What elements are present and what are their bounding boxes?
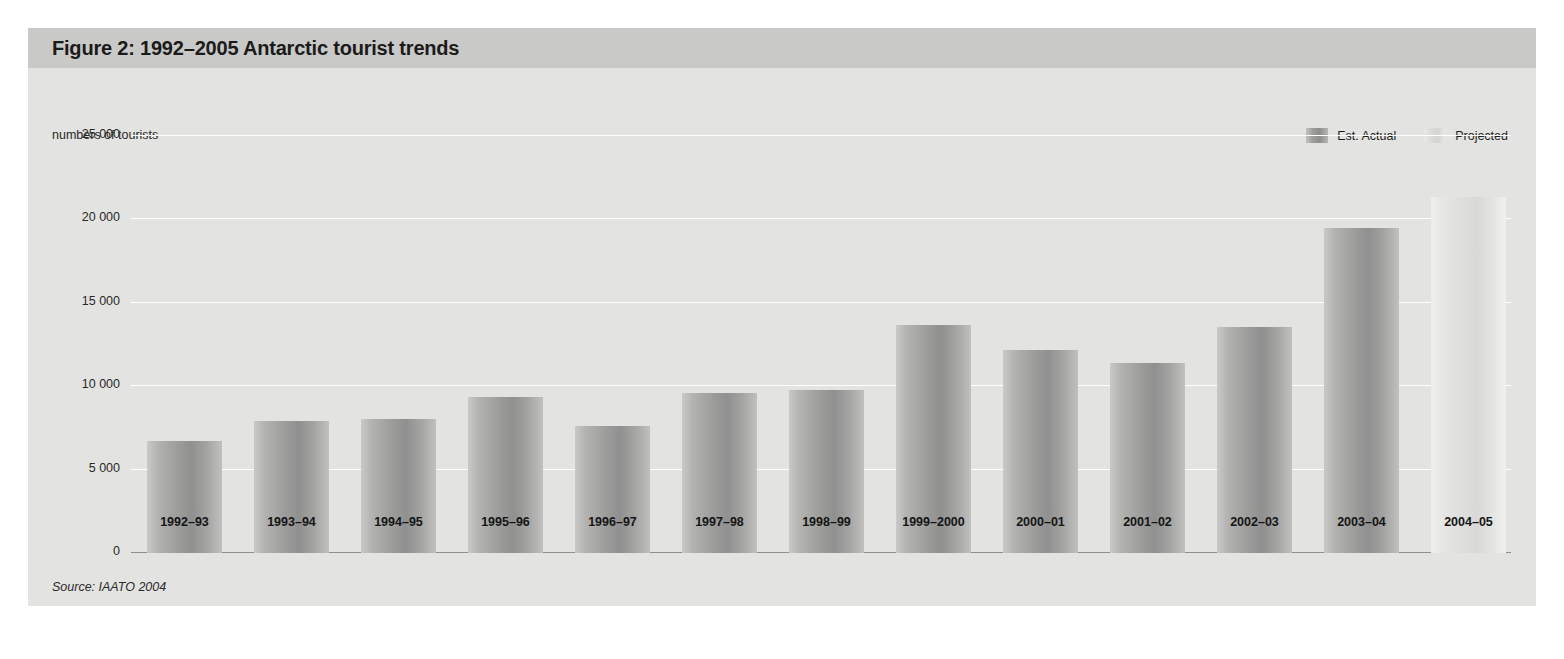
plot-area: numbers of tourists Est. Actual Projecte… <box>28 68 1536 606</box>
x-axis-category-label: 1993–94 <box>238 515 345 529</box>
bars-group: 1992–931993–941994–951995–961996–971997–… <box>131 68 1511 606</box>
x-axis-category-label: 1996–97 <box>559 515 666 529</box>
x-axis-category-label: 1997–98 <box>666 515 773 529</box>
bar-group: 1994–95 <box>345 15 452 553</box>
y-axis-tick-label: 20 000 <box>48 210 120 224</box>
x-axis-category-label: 1995–96 <box>452 515 559 529</box>
y-axis-tick-label: 0 <box>48 544 120 558</box>
x-axis-category-label: 1998–99 <box>773 515 880 529</box>
y-axis-tick-label: 25 000 <box>48 127 120 141</box>
bar-group: 2004–05 <box>1415 15 1522 553</box>
x-axis-category-label: 1999–2000 <box>880 515 987 529</box>
bar-group: 2001–02 <box>1094 15 1201 553</box>
bar-group: 1995–96 <box>452 15 559 553</box>
bar-group: 1997–98 <box>666 15 773 553</box>
x-axis-category-label: 1992–93 <box>131 515 238 529</box>
bar-est_actual[interactable] <box>147 441 222 553</box>
y-axis-tick-label: 5 000 <box>48 461 120 475</box>
bar-est_actual[interactable] <box>468 397 543 553</box>
bar-projected[interactable] <box>1431 197 1506 553</box>
x-axis-category-label: 2001–02 <box>1094 515 1201 529</box>
bar-est_actual[interactable] <box>254 421 329 553</box>
bar-est_actual[interactable] <box>575 426 650 553</box>
figure-panel: Figure 2: 1992–2005 Antarctic tourist tr… <box>28 28 1536 606</box>
bar-group: 2000–01 <box>987 15 1094 553</box>
bar-group: 1992–93 <box>131 15 238 553</box>
y-axis-tick-label: 15 000 <box>48 294 120 308</box>
bar-group: 1996–97 <box>559 15 666 553</box>
y-axis-tick-label: 10 000 <box>48 377 120 391</box>
bar-group: 1993–94 <box>238 15 345 553</box>
bar-group: 1998–99 <box>773 15 880 553</box>
bar-group: 1999–2000 <box>880 15 987 553</box>
x-axis-category-label: 2002–03 <box>1201 515 1308 529</box>
bar-group: 2002–03 <box>1201 15 1308 553</box>
x-axis-category-label: 1994–95 <box>345 515 452 529</box>
x-axis-category-label: 2004–05 <box>1415 515 1522 529</box>
bar-est_actual[interactable] <box>1324 228 1399 553</box>
bar-est_actual[interactable] <box>361 419 436 553</box>
x-axis-category-label: 2000–01 <box>987 515 1094 529</box>
source-note: Source: IAATO 2004 <box>52 580 166 594</box>
x-axis-category-label: 2003–04 <box>1308 515 1415 529</box>
bar-group: 2003–04 <box>1308 15 1415 553</box>
